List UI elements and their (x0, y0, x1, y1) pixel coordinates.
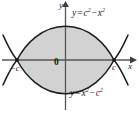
equation-label-upper-parabola: y=c2−x2 (72, 9, 105, 19)
upper-minus: − (91, 8, 98, 18)
upper-term2-exp: 2 (102, 7, 105, 13)
x-axis-label: x (128, 62, 132, 71)
lower-minus: − (89, 88, 96, 98)
tick-label-positive-c: c (112, 63, 116, 72)
parabola-region-figure: y=c2−x2 y=x2−c2 y x 0 −c c (0, 0, 139, 113)
tick-label-negative-c: −c (10, 64, 20, 73)
y-axis-label: y (59, 1, 63, 10)
equation-label-lower-parabola: y=x2−c2 (70, 89, 103, 99)
lower-term2-exp: 2 (100, 87, 103, 93)
origin-label: 0 (54, 58, 59, 68)
intersection-point-left (15, 58, 19, 62)
